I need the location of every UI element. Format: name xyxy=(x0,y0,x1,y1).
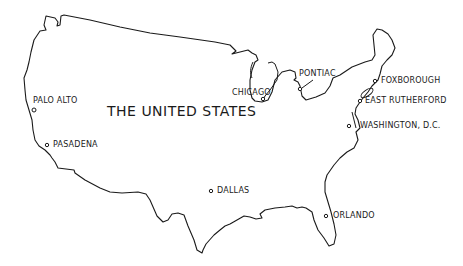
map-title: THE UNITED STATES xyxy=(107,103,256,119)
us-outline-icon xyxy=(0,0,463,266)
city-label-foxborough: FOXBOROUGH xyxy=(381,76,440,85)
city-label-palo-alto: PALO ALTO xyxy=(33,96,78,105)
city-label-washington-dc: WASHINGTON, D.C. xyxy=(360,121,441,130)
city-label-pontiac: PONTIAC xyxy=(299,69,336,78)
city-label-dallas: DALLAS xyxy=(217,186,249,195)
city-label-chicago: CHICAGO xyxy=(232,88,271,97)
city-label-orlando: ORLANDO xyxy=(333,211,375,220)
city-label-pasadena: PASADENA xyxy=(53,140,98,149)
us-map: THE UNITED STATES PALO ALTO PASADENA CHI… xyxy=(0,0,463,266)
city-label-east-rutherford: EAST RUTHERFORD xyxy=(365,96,447,105)
